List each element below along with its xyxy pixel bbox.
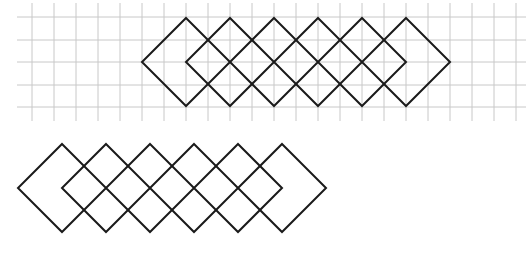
diagram-canvas	[0, 0, 526, 262]
diamond-chain-plain	[18, 144, 326, 232]
